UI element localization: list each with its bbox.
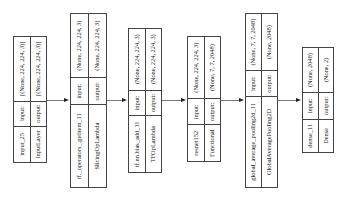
edge-getitem-to-biasadd (107, 100, 123, 101)
output-shape: (None, 2) (318, 48, 334, 93)
arrow-head-icon (239, 98, 244, 102)
node-type: Dense (318, 119, 334, 152)
input-shape: [(None, 224, 224, 3)] (14, 37, 31, 102)
arrow-head-icon (296, 98, 301, 102)
output-shape: (None, 2048) (262, 14, 278, 71)
output-shape: (None, 224, 224, 3) (89, 14, 107, 78)
input-label: input: (188, 99, 205, 125)
node-type: TFOpLambda (145, 116, 162, 173)
input-label: input: (14, 101, 31, 126)
input-shape: (None, 224, 224, 3) (188, 37, 205, 99)
node-name: input_25 (14, 126, 31, 162)
edge-gap-to-dense (278, 100, 296, 101)
edge-biasadd-to-resnet (162, 100, 181, 101)
input-label: input: (303, 93, 319, 120)
output-label: output: (89, 78, 107, 105)
edge-input-to-getitem (47, 100, 65, 101)
output-label: output: (318, 93, 334, 120)
input-label: input: (129, 90, 146, 116)
output-label: output: (262, 71, 278, 97)
node-functional-resnet: resnet152 input: (None, 224, 224, 3) Fun… (187, 36, 221, 162)
node-name: tf._operators_.getitem_11 (71, 105, 89, 188)
input-shape: (None, 7, 7, 2048) (246, 14, 262, 71)
node-slicing-op-lambda: tf._operators_.getitem_11 input: (None, … (70, 13, 107, 188)
output-label: output: (30, 101, 47, 126)
node-dense: dense_11 input: (None, 2048) Dense outpu… (302, 47, 334, 153)
node-global-average-pooling: global_average_pooling2d_11 input: (None… (245, 13, 278, 188)
node-name: resnet152 (188, 125, 205, 162)
input-label: input: (246, 71, 262, 97)
output-shape: [(None, 224, 224, 3)] (30, 37, 47, 102)
output-shape: (None, 7, 7, 2048) (204, 37, 221, 99)
arrow-head-icon (64, 98, 69, 102)
node-tf-op-lambda: tf.nn.bias_add_11 input: (None, 224, 224… (128, 28, 162, 173)
node-input-layer: input_25 input: [(None, 224, 224, 3)] In… (13, 36, 47, 163)
output-shape: (None, 224, 224, 3) (145, 29, 162, 91)
input-shape: (None, 224, 224, 3) (129, 29, 146, 91)
node-type: InputLayer (30, 126, 47, 162)
input-label: input: (71, 78, 89, 105)
node-name: global_average_pooling2d_11 (246, 96, 262, 187)
input-shape: (None, 224, 224, 3) (71, 14, 89, 78)
node-type: Functional (204, 125, 221, 162)
node-type: GlobalAveragePooling2D (262, 96, 278, 187)
edge-resnet-to-gap (221, 100, 240, 101)
output-label: output: (204, 99, 221, 125)
node-name: tf.nn.bias_add_11 (129, 116, 146, 173)
node-type: SlicingOpLambda (89, 105, 107, 188)
arrow-head-icon (122, 98, 127, 102)
node-name: dense_11 (303, 119, 319, 152)
output-label: output: (145, 90, 162, 116)
arrow-head-icon (181, 98, 186, 102)
input-shape: (None, 2048) (303, 48, 319, 93)
